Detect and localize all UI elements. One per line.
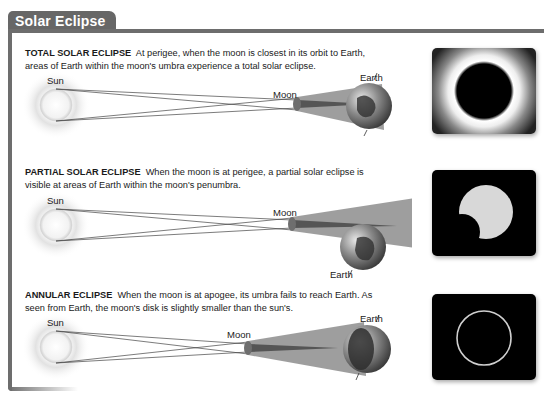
earth-label: Earth (360, 313, 383, 324)
partial-eclipse-text-2: visible at areas of Earth within the moo… (25, 180, 241, 190)
total-eclipse-diagram (12, 70, 412, 155)
sun-icon (40, 331, 72, 363)
sun-label: Sun (47, 317, 64, 328)
annular-eclipse-heading: ANNULAR ECLIPSE (25, 290, 112, 300)
partial-eclipse-text: When the moon is at perigee, a partial s… (146, 167, 364, 177)
total-eclipse-text-2: areas of Earth within the moon's umbra e… (25, 61, 316, 71)
moon-label: Moon (273, 89, 297, 100)
sun-label: Sun (47, 195, 64, 206)
partial-eclipse-photo (432, 170, 536, 256)
total-eclipse-photo (432, 48, 536, 134)
annular-eclipse-text-2: seen from Earth, the moon's disk is slig… (25, 303, 293, 313)
total-eclipse-text: At perigee, when the moon is closest in … (136, 48, 365, 58)
moon-label: Moon (273, 207, 297, 218)
partial-eclipse-caption: PARTIAL SOLAR ECLIPSE When the moon is a… (25, 166, 405, 191)
moon-icon (288, 217, 296, 231)
annular-eclipse-text: When the moon is at apogee, its umbra fa… (117, 290, 372, 300)
moon-icon (244, 341, 252, 355)
title-tab: Solar Eclipse (8, 11, 116, 31)
partial-eclipse-heading: PARTIAL SOLAR ECLIPSE (25, 167, 141, 177)
moon-label: Moon (227, 329, 251, 340)
annular-eclipse-photo (432, 294, 536, 380)
total-eclipse-heading: TOTAL SOLAR ECLIPSE (25, 48, 131, 58)
annular-eclipse-diagram (12, 312, 412, 402)
annular-eclipse-caption: ANNULAR ECLIPSE When the moon is at apog… (25, 289, 405, 314)
earth-label: Earth (360, 72, 383, 83)
sun-icon (40, 89, 72, 121)
total-eclipse-caption: TOTAL SOLAR ECLIPSE At perigee, when the… (25, 47, 405, 72)
earth-label: Earth (330, 269, 353, 280)
sun-icon (40, 209, 72, 241)
sun-label: Sun (47, 75, 64, 86)
frame-top-border (8, 29, 544, 33)
